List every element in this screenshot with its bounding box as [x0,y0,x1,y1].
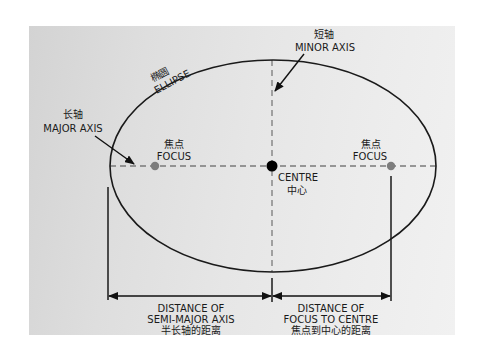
right-focus-label-cn: 焦点 [361,138,381,150]
semi-major-caption-line1: DISTANCE OF [158,303,225,314]
major-axis-label-cn: 长轴 [63,108,83,120]
focus-centre-caption-cn: 焦点到中心的距离 [291,324,371,336]
semi-major-caption-line2: SEMI-MAJOR AXIS [147,314,234,325]
right-focus-dot [387,162,395,170]
minor-axis-label-en: MINOR AXIS [295,42,355,53]
semi-major-caption-cn: 半长轴的距离 [161,324,221,336]
focus-centre-caption-line2: FOCUS TO CENTRE [284,314,379,325]
left-focus-dot [151,162,159,170]
centre-label-en: CENTRE [278,172,318,183]
left-focus-label-cn: 焦点 [164,138,184,150]
centre-dot [267,161,278,172]
major-axis-label-en: MAJOR AXIS [43,123,102,134]
left-focus-label-en: FOCUS [157,151,191,162]
focus-centre-caption-line1: DISTANCE OF [298,303,365,314]
right-focus-label-en: FOCUS [353,151,387,162]
ellipse-diagram: 椭圆 ELLIPSE 长轴 MAJOR AXIS 短轴 MINOR AXIS 焦… [0,0,480,364]
centre-label-cn: 中心 [287,184,307,196]
minor-axis-label-cn: 短轴 [314,28,334,40]
